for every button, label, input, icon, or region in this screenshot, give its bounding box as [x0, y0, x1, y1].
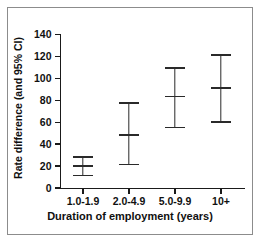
data-point-marker: [73, 165, 93, 167]
error-bar: [117, 35, 141, 189]
error-bar-upper-cap: [211, 54, 231, 55]
error-bar-upper-cap: [73, 156, 93, 157]
data-point-marker: [165, 96, 185, 98]
error-bar-lower-cap: [73, 175, 93, 176]
error-bar-stem: [128, 102, 129, 163]
x-axis-tick-label: 2.0-4.9: [113, 196, 146, 207]
y-axis-tick-label: 100: [34, 73, 52, 84]
y-axis-tick-label: 120: [34, 51, 52, 62]
x-axis-tick-label: 1.0-1.9: [67, 196, 100, 207]
figure-frame: Rate difference (and 95% CI) 02040608010…: [7, 7, 253, 235]
error-bar-upper-cap: [165, 67, 185, 68]
x-axis-tick-label: 5.0-9.9: [159, 196, 192, 207]
x-axis-tick: [82, 189, 83, 194]
y-axis-tick-label: 0: [46, 183, 52, 194]
data-point-marker: [211, 87, 231, 89]
data-point-marker: [119, 134, 139, 136]
error-bar-lower-cap: [119, 164, 139, 165]
x-axis-tick: [220, 189, 221, 194]
plot-area: [60, 35, 244, 189]
error-bar: [71, 35, 95, 189]
x-axis-tick: [174, 189, 175, 194]
y-axis-tick-label: 60: [40, 117, 52, 128]
error-bar: [209, 35, 233, 189]
y-axis-tick-label: 40: [40, 139, 52, 150]
y-axis-tick-label: 140: [34, 29, 52, 40]
y-axis-title: Rate difference (and 95% CI): [12, 37, 24, 179]
error-bar-upper-cap: [119, 102, 139, 103]
error-bar: [163, 35, 187, 189]
y-axis-tick-label: 80: [40, 95, 52, 106]
error-bar-lower-cap: [211, 121, 231, 122]
error-bar-lower-cap: [165, 127, 185, 128]
x-axis-tick-label: 10+: [212, 196, 230, 207]
y-axis-tick-label: 20: [40, 161, 52, 172]
x-axis-tick: [128, 189, 129, 194]
y-axis-title-container: Rate difference (and 95% CI): [10, 8, 26, 208]
x-axis-title: Duration of employment (years): [8, 210, 252, 222]
